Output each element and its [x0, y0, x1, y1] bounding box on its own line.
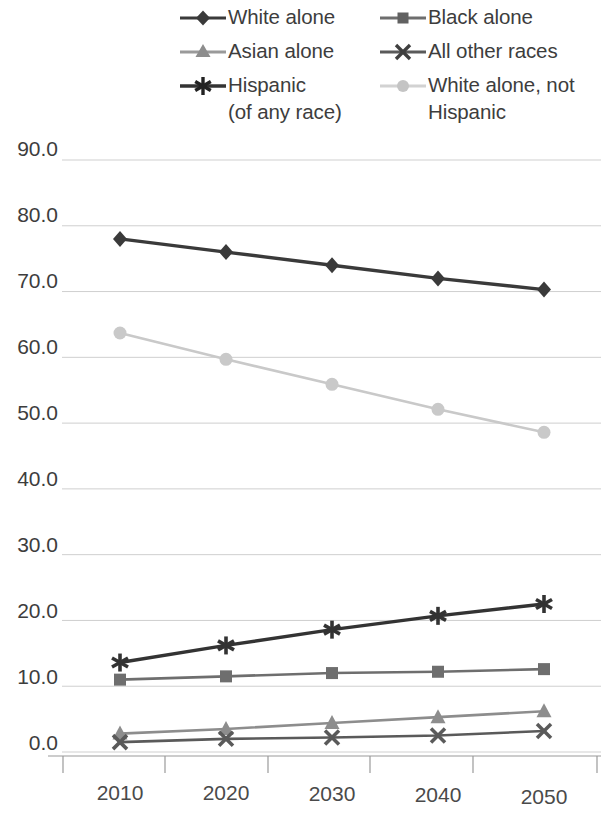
legend-label-line1: Hispanic — [228, 73, 306, 96]
x-tick-label: 2030 — [309, 783, 356, 804]
x-cross-marker-icon — [378, 39, 428, 65]
legend-item-all-other-races[interactable]: All other races — [378, 38, 588, 72]
x-axis-labels: 2010 2020 2030 2040 2050 — [0, 770, 601, 814]
series-hispanic-of-any-race — [112, 595, 552, 672]
legend-item-white-alone[interactable]: White alone — [178, 4, 388, 38]
chart-legend: White alone Asian alone — [178, 4, 601, 128]
legend-label-line1: White alone, not — [428, 73, 575, 96]
legend-label: Asian alone — [228, 38, 334, 64]
diamond-marker-icon — [178, 5, 228, 31]
series-black-alone — [114, 663, 550, 686]
x-tick-label: 2040 — [415, 784, 462, 805]
legend-label-line2: Hispanic — [428, 98, 575, 125]
legend-label-line2: (of any race) — [228, 98, 342, 125]
legend-label: All other races — [428, 38, 558, 64]
series-white-alone-not-hispanic — [114, 326, 551, 438]
square-marker-icon — [378, 5, 428, 31]
legend-label: Black alone — [428, 4, 533, 30]
legend-label: Hispanic(of any race) — [228, 72, 342, 125]
data-series-layer — [112, 231, 552, 749]
legend-column-right: Black alone All other races — [378, 4, 588, 106]
gridlines — [62, 160, 601, 752]
legend-column-left: White alone Asian alone — [178, 4, 388, 106]
triangle-marker-icon — [178, 39, 228, 65]
plot-canvas — [0, 130, 601, 778]
x-tick-label: 2010 — [97, 782, 144, 803]
legend-item-white-alone-not-hispanic[interactable]: White alone, notHispanic — [378, 72, 588, 106]
x-tick-label: 2020 — [203, 782, 250, 803]
legend-item-black-alone[interactable]: Black alone — [378, 4, 588, 38]
legend-label: White alone, notHispanic — [428, 72, 575, 125]
legend-label: White alone — [228, 4, 335, 30]
population-projection-line-chart: White alone Asian alone — [0, 0, 601, 814]
legend-item-hispanic[interactable]: Hispanic(of any race) — [178, 72, 388, 106]
plot-area: 90.0 80.0 70.0 60.0 50.0 40.0 30.0 20.0 … — [0, 130, 601, 814]
asterisk-marker-icon — [178, 73, 228, 99]
x-tick-label: 2050 — [521, 786, 568, 807]
series-white-alone — [113, 231, 551, 298]
circle-marker-icon — [378, 73, 428, 99]
legend-item-asian-alone[interactable]: Asian alone — [178, 38, 388, 72]
